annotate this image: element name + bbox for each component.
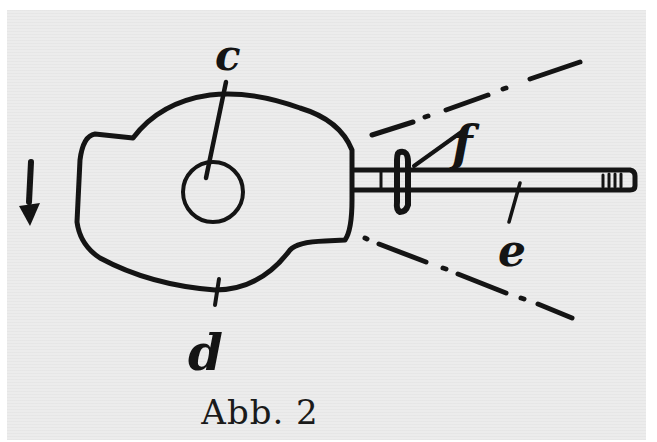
label-e: e xyxy=(498,225,526,276)
label-c: c xyxy=(215,31,241,80)
label-f: f xyxy=(449,115,480,171)
collar xyxy=(397,152,408,212)
leader-line-d xyxy=(215,279,219,305)
cam-body-outline xyxy=(77,94,352,290)
label-d: d xyxy=(188,323,223,382)
figure-caption: Abb. 2 xyxy=(180,392,340,432)
lower-dash-dot-line xyxy=(365,238,572,318)
rotation-arrow-icon xyxy=(19,162,40,226)
upper-dash-dot-line xyxy=(372,62,580,135)
hub-circle xyxy=(183,162,243,222)
technical-drawing: c f e d xyxy=(0,0,657,442)
rod-end-threads xyxy=(603,174,621,187)
